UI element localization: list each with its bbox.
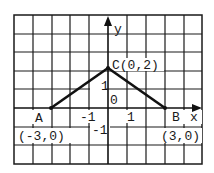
point-c-label: C(0,2)	[112, 58, 159, 73]
y-tick-neg1: -1	[92, 123, 108, 138]
point-b-name: B	[172, 110, 180, 125]
x-axis-label: x	[190, 110, 198, 125]
y-axis-label: y	[114, 22, 122, 37]
point-b	[163, 106, 167, 110]
point-b-coord: (3,0)	[161, 129, 200, 144]
point-a	[49, 106, 53, 110]
coordinate-diagram: y x C(0,2) 1 0 -1 1 -1 A (-3,0) B (3,0)	[0, 0, 214, 173]
point-c	[106, 66, 110, 70]
y-tick-pos1: 1	[101, 79, 109, 94]
x-tick-pos1: 1	[127, 110, 135, 125]
point-a-name: A	[35, 111, 43, 126]
y-axis-arrow-icon	[104, 16, 112, 26]
point-a-coord: (-3,0)	[18, 129, 65, 144]
origin-label: 0	[110, 93, 118, 108]
